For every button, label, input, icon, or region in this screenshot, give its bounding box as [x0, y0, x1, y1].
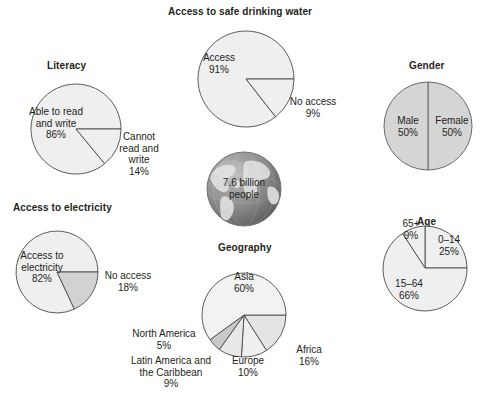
- label-age-15-64: 15–64 66%: [383, 278, 435, 301]
- label-age-65-plus: 65+ 9%: [395, 218, 427, 241]
- globe-population-text: 7.6 billion people: [206, 177, 282, 201]
- globe-icon: 7.6 billion people: [206, 151, 282, 227]
- label-age-0-14: 0–14 25%: [428, 234, 470, 257]
- infographic-canvas: Literacy Able to read and write 86% Cann…: [0, 0, 486, 400]
